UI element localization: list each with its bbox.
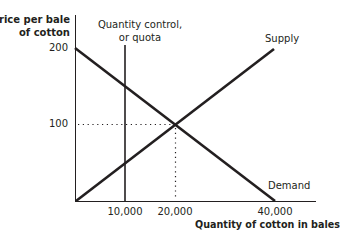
y-tick-200: 200: [49, 42, 68, 54]
demand-label: Demand: [268, 180, 310, 192]
quota-label-line1: Quantity control,: [85, 19, 195, 31]
x-tick-40000: 40,000: [250, 206, 300, 218]
x-tick-10000: 10,000: [100, 206, 150, 218]
y-axis-title-line2: of cotton: [19, 27, 70, 39]
x-tick-20000: 20,000: [150, 206, 200, 218]
quota-label-line2: or quota: [85, 32, 195, 44]
y-axis-title-line1: Price per bale: [0, 14, 70, 26]
x-axis-title: Quantity of cotton in bales: [195, 219, 340, 231]
supply-label: Supply: [265, 33, 299, 45]
y-tick-100: 100: [49, 118, 68, 130]
